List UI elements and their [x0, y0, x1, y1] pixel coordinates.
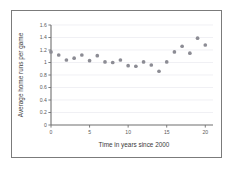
data-point [111, 61, 115, 65]
y-tick-label: 1.4 [40, 34, 47, 40]
data-point [72, 56, 76, 60]
data-point [173, 50, 177, 54]
data-point [142, 60, 146, 64]
data-point [119, 58, 123, 62]
data-point [157, 69, 161, 73]
data-point [88, 59, 92, 63]
x-tick-label: 0 [50, 129, 53, 135]
data-point [49, 50, 53, 54]
data-point [126, 64, 130, 68]
x-tick-label: 5 [88, 129, 91, 135]
x-axis-title: Time in years since 2000 [99, 141, 170, 149]
y-tick-label: 1 [44, 59, 47, 65]
data-point [80, 53, 84, 57]
x-tick-label: 10 [125, 129, 131, 135]
y-tick-label: 0.2 [40, 109, 47, 115]
x-tick-label: 15 [164, 129, 170, 135]
y-tick-label: 0.6 [40, 84, 47, 90]
x-tick-label: 20 [202, 129, 208, 135]
y-tick-label: 0.8 [40, 72, 47, 78]
y-tick-label: 0 [44, 122, 47, 128]
data-point [203, 43, 207, 47]
chart-canvas: 00.20.40.60.811.21.41.6 05101520 Time in… [12, 11, 223, 159]
data-point [180, 44, 184, 48]
data-point [95, 54, 99, 58]
y-tick-label: 1.6 [40, 22, 47, 28]
data-point [149, 63, 153, 67]
chart-figure-frame: 00.20.40.60.811.21.41.6 05101520 Time in… [11, 10, 222, 158]
gridlines-group [51, 25, 213, 113]
x-tick-labels-group: 05101520 [50, 129, 209, 135]
data-point [188, 51, 192, 55]
data-point [165, 60, 169, 64]
y-axis-title: Average home runs per game [17, 32, 25, 117]
data-point [134, 64, 138, 68]
scatter-plot: 00.20.40.60.811.21.41.6 05101520 Time in… [12, 11, 223, 159]
data-point [57, 53, 61, 57]
y-tick-labels-group: 00.20.40.60.811.21.41.6 [40, 22, 47, 128]
data-point [65, 58, 69, 62]
data-points-group [49, 36, 207, 73]
y-tick-label: 0.4 [40, 97, 47, 103]
scan-artifact-top [0, 0, 234, 3]
data-point [103, 60, 107, 64]
data-point [196, 36, 200, 40]
y-tick-label: 1.2 [40, 47, 47, 53]
